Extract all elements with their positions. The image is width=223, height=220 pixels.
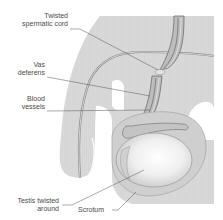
label-scrotum: Scrotum	[78, 206, 104, 214]
twist-point	[155, 70, 165, 75]
label-twisted-spermatic-cord: Twisted spermatic cord	[22, 12, 68, 28]
label-testis-twisted-around: Testis twisted around	[17, 197, 59, 213]
testis	[116, 133, 192, 187]
white-notch	[112, 80, 124, 111]
label-vas-deferens: Vas deferens	[18, 61, 45, 77]
label-blood-vessels: Blood vessels	[22, 95, 45, 111]
